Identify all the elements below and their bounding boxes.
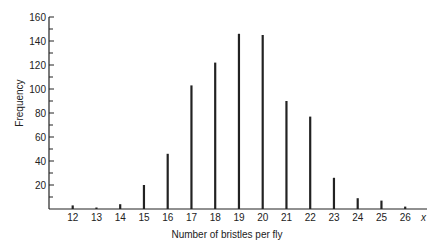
y-axis: 20406080100120140160: [29, 12, 54, 210]
y-tick-label: 140: [29, 36, 46, 47]
x-tick-label: 13: [91, 212, 103, 223]
y-tick-label: 80: [35, 108, 47, 119]
y-tick-label: 20: [35, 180, 47, 191]
x-tick-label: 22: [305, 212, 317, 223]
bar-chart: 20406080100120140160 1213141516171819202…: [0, 0, 441, 250]
y-axis-title: Frequency: [14, 79, 25, 126]
x-tick-label: 16: [162, 212, 174, 223]
x-tick-label: 12: [67, 212, 79, 223]
y-tick-label: 60: [35, 132, 47, 143]
x-tick-label: 24: [352, 212, 364, 223]
x-tick-label: 23: [328, 212, 340, 223]
x-tick-label: 20: [257, 212, 269, 223]
y-tick-label: 40: [35, 156, 47, 167]
x-tick-label: 25: [376, 212, 388, 223]
x-tick-label: 14: [115, 212, 127, 223]
x-tick-label: 18: [210, 212, 222, 223]
x-tick-label: 26: [400, 212, 412, 223]
bars: [73, 34, 406, 209]
x-tick-label: 17: [186, 212, 198, 223]
x-axis-symbol: x: [420, 212, 427, 223]
x-axis: 121314151617181920212223242526: [49, 209, 427, 223]
x-tick-label: 15: [138, 212, 150, 223]
y-tick-label: 100: [29, 84, 46, 95]
x-tick-label: 19: [233, 212, 245, 223]
y-tick-label: 120: [29, 60, 46, 71]
x-axis-title: Number of bristles per fly: [171, 229, 282, 240]
x-tick-label: 21: [281, 212, 293, 223]
y-tick-label: 160: [29, 12, 46, 23]
